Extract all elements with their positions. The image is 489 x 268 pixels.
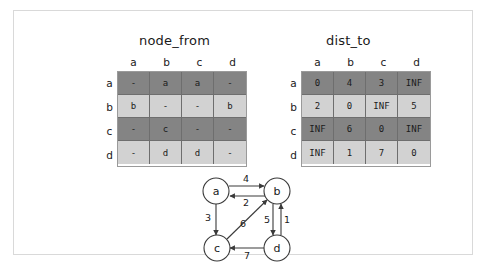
table-cell: -: [150, 95, 182, 118]
table-cell: 0: [366, 118, 398, 141]
table-cell: INF: [302, 141, 334, 164]
dist-to-title: dist_to: [326, 33, 371, 48]
column-header: c: [367, 55, 400, 69]
table-row: - c - -: [118, 118, 246, 141]
row-header: d: [286, 143, 301, 167]
table-cell: c: [150, 118, 182, 141]
table-cell: d: [150, 141, 182, 164]
node-from-grid: - a a - b - - b - c - - -: [117, 71, 247, 167]
dist-to-column-headers: a b c d: [301, 55, 433, 69]
table-cell: 1: [334, 141, 366, 164]
table-cell: -: [182, 95, 214, 118]
column-header: d: [400, 55, 433, 69]
edge-weight-c-b: 6: [240, 218, 246, 229]
row-header: c: [286, 119, 301, 143]
row-header: b: [286, 95, 301, 119]
table-cell: b: [214, 95, 246, 118]
graph-node-label-d: d: [274, 242, 281, 255]
table-row: - a a -: [118, 72, 246, 95]
table-cell: d: [182, 141, 214, 164]
node-from-title: node_from: [139, 33, 210, 48]
edge-weight-b-d: 5: [264, 214, 270, 225]
table-row: INF 1 7 0: [302, 141, 430, 164]
table-row: 2 0 INF 5: [302, 95, 430, 118]
table-row: INF 6 0 INF: [302, 118, 430, 141]
row-header: a: [286, 71, 301, 95]
table-cell: 5: [398, 95, 430, 118]
table-cell: 6: [334, 118, 366, 141]
table-cell: 0: [334, 95, 366, 118]
table-cell: -: [214, 118, 246, 141]
edge-weight-a-b: 4: [243, 173, 249, 184]
node-from-column-headers: a b c d: [117, 55, 249, 69]
table-cell: INF: [366, 95, 398, 118]
edge-weight-a-c: 3: [205, 212, 211, 223]
table-cell: 7: [366, 141, 398, 164]
graph-svg: a b c d 4 2 3 6 5 1 7: [184, 171, 334, 266]
column-header: d: [216, 55, 249, 69]
table-cell: INF: [302, 118, 334, 141]
table-cell: 2: [302, 95, 334, 118]
graph-node-label-c: c: [214, 242, 220, 255]
graph-node-label-a: a: [213, 185, 220, 198]
table-cell: -: [182, 118, 214, 141]
table-cell: -: [118, 118, 150, 141]
edge-weight-d-c: 7: [244, 250, 250, 261]
row-header: c: [102, 119, 117, 143]
edge-weight-b-a: 2: [243, 197, 249, 208]
table-cell: -: [118, 72, 150, 95]
column-header: b: [150, 55, 183, 69]
row-header: d: [102, 143, 117, 167]
table-cell: 0: [302, 72, 334, 95]
row-header: a: [102, 71, 117, 95]
table-cell: -: [118, 141, 150, 164]
node-from-row-headers: a b c d: [102, 71, 117, 167]
table-cell: 4: [334, 72, 366, 95]
column-header: a: [117, 55, 150, 69]
node-from-grid-wrap: a b c d - a a - b - - b -: [102, 71, 247, 167]
table-row: - d d -: [118, 141, 246, 164]
table-cell: 0: [398, 141, 430, 164]
dist-to-grid: 0 4 3 INF 2 0 INF 5 INF 6 0 INF: [301, 71, 431, 167]
column-header: a: [301, 55, 334, 69]
table-row: b - - b: [118, 95, 246, 118]
edge-weight-d-b: 1: [284, 214, 290, 225]
column-header: b: [334, 55, 367, 69]
table-cell: -: [214, 72, 246, 95]
table-cell: INF: [398, 118, 430, 141]
table-cell: 3: [366, 72, 398, 95]
table-cell: b: [118, 95, 150, 118]
table-row: 0 4 3 INF: [302, 72, 430, 95]
graph-diagram: a b c d 4 2 3 6 5 1 7: [184, 171, 334, 266]
table-cell: -: [214, 141, 246, 164]
table-cell: a: [150, 72, 182, 95]
table-cell: a: [182, 72, 214, 95]
graph-node-label-b: b: [274, 185, 281, 198]
dist-to-row-headers: a b c d: [286, 71, 301, 167]
table-cell: INF: [398, 72, 430, 95]
column-header: c: [183, 55, 216, 69]
row-header: b: [102, 95, 117, 119]
figure-frame: node_from dist_to a b c d a b c d - a a …: [13, 10, 473, 255]
dist-to-grid-wrap: a b c d 0 4 3 INF 2 0 INF 5: [286, 71, 431, 167]
